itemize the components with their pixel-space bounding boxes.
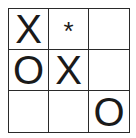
x-mark: X — [15, 9, 42, 49]
o-mark: O — [93, 92, 124, 132]
cell-r0c2[interactable] — [89, 9, 129, 50]
cell-r1c0[interactable]: O — [9, 50, 49, 91]
cell-r0c1[interactable]: * — [49, 9, 89, 50]
cell-r2c2[interactable]: O — [89, 91, 129, 132]
cell-r1c1[interactable]: X — [49, 50, 89, 91]
cell-r2c1[interactable] — [49, 91, 89, 132]
x-mark: X — [55, 50, 82, 90]
cell-r0c0[interactable]: X — [9, 9, 49, 50]
cell-r1c2[interactable] — [89, 50, 129, 91]
cell-r2c0[interactable] — [9, 91, 49, 132]
asterisk-marker: * — [63, 18, 73, 44]
o-mark: O — [13, 50, 44, 90]
tic-tac-toe-board: X * O X O — [8, 8, 130, 133]
